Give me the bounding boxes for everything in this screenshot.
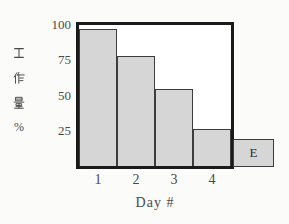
x-tick-label-3: 3 xyxy=(155,172,193,188)
y-axis-title: % xyxy=(11,46,27,134)
cjk-glyph-gong-icon xyxy=(12,46,26,60)
x-tick-label-2: 2 xyxy=(117,172,155,188)
x-tick-label-1: 1 xyxy=(79,172,117,188)
bar-e: E xyxy=(233,139,274,167)
bar-day-1 xyxy=(79,29,117,166)
plot-area xyxy=(76,22,234,169)
cjk-glyph-liang-icon xyxy=(12,96,26,110)
y-axis-unit-percent: % xyxy=(14,121,24,134)
bar-day-4 xyxy=(193,129,231,166)
bar-chart-figure: % E 100755025 1234 Day # xyxy=(0,0,289,224)
x-tick-label-4: 4 xyxy=(193,172,231,188)
bars-container xyxy=(79,25,231,166)
cjk-glyph-zuo-icon xyxy=(12,71,26,85)
y-tick-label-25: 25 xyxy=(39,123,71,138)
bar-day-3 xyxy=(155,89,193,167)
x-axis-title: Day # xyxy=(76,195,234,211)
bar-e-label: E xyxy=(250,145,258,161)
bar-day-2 xyxy=(117,56,155,166)
y-tick-label-50: 50 xyxy=(39,88,71,103)
y-tick-label-75: 75 xyxy=(39,52,71,67)
y-tick-label-100: 100 xyxy=(39,17,71,32)
